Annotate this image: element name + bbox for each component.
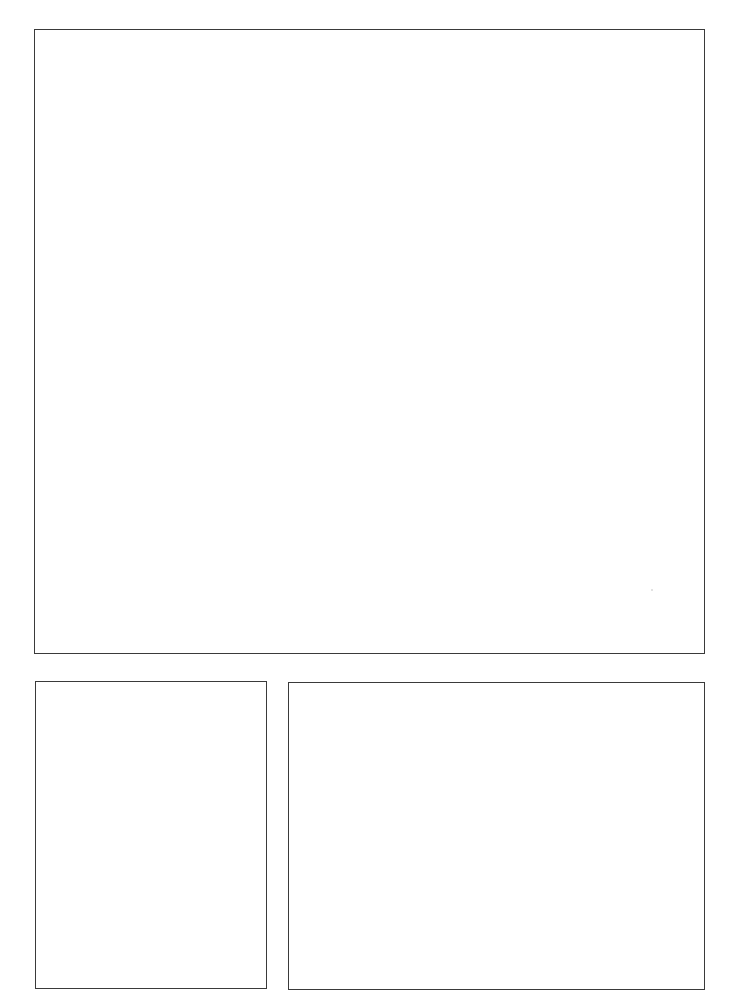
panel-bottom-left	[35, 681, 267, 989]
page	[0, 0, 729, 999]
panel-top	[34, 29, 705, 654]
scan-speck	[651, 589, 653, 591]
panel-bottom-right	[288, 682, 705, 990]
